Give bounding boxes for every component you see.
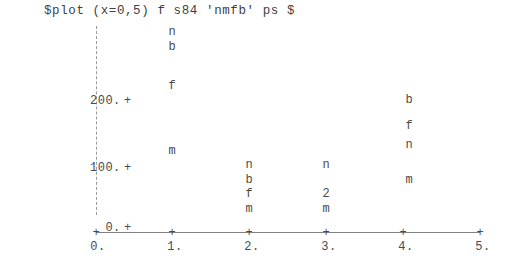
x-tick-1-label: 1. <box>167 240 182 254</box>
y-tick-200-mark: + <box>121 94 135 108</box>
data-point-overlap-mark: 2 <box>322 188 329 200</box>
x-tick-0-mark: + <box>92 227 99 239</box>
data-point-mark: b <box>168 41 175 53</box>
x-tick-3-label: 3. <box>321 240 336 254</box>
y-tick-200: 200.+ <box>52 80 135 122</box>
plot-command-line: $plot (x=0,5) f s84 'nmfb' ps $ <box>44 4 295 18</box>
data-point-mark: n <box>245 159 252 171</box>
data-point-mark: b <box>245 174 252 186</box>
y-tick-0-mark: + <box>121 221 135 235</box>
data-point-mark: m <box>168 145 175 157</box>
data-point-mark: n <box>322 159 329 171</box>
data-point-mark: m <box>322 203 329 215</box>
y-tick-200-label: 200. <box>83 94 121 108</box>
data-point-mark: f <box>168 80 175 92</box>
data-point-mark: m <box>245 203 252 215</box>
x-tick-2-label: 2. <box>244 240 259 254</box>
x-tick-2-mark: + <box>245 227 252 239</box>
y-tick-100: 100.+ <box>52 147 135 189</box>
y-tick-100-label: 100. <box>83 161 121 175</box>
x-axis-line <box>96 232 480 233</box>
x-tick-4-label: 4. <box>398 240 413 254</box>
y-tick-0-label: 0. <box>83 221 121 235</box>
data-point-mark: n <box>168 26 175 38</box>
x-tick-1-mark: + <box>168 227 175 239</box>
data-point-mark: n <box>405 139 412 151</box>
data-point-mark: f <box>405 120 412 132</box>
plot-canvas: $plot (x=0,5) f s84 'nmfb' ps $ 200.+ 10… <box>0 0 516 262</box>
x-tick-5-label: 5. <box>475 240 490 254</box>
x-tick-0-label: 0. <box>90 240 105 254</box>
data-point-mark: f <box>245 188 252 200</box>
x-tick-3-mark: + <box>322 227 329 239</box>
x-tick-5-mark: + <box>476 227 483 239</box>
data-point-mark: m <box>405 174 412 186</box>
x-tick-4-mark: + <box>399 227 406 239</box>
y-tick-100-mark: + <box>121 161 135 175</box>
data-point-mark: b <box>405 94 412 106</box>
